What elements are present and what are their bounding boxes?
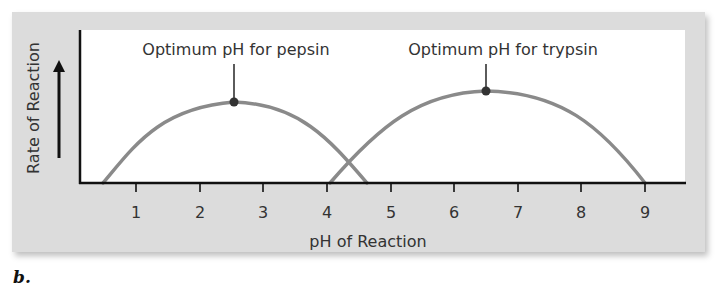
trypsin-curve [330,91,645,183]
chart-svg [0,0,727,297]
pepsin-annotation: Optimum pH for pepsin [142,40,329,59]
x-tick-label: 3 [258,203,268,222]
figure-label: b. [13,267,31,287]
x-axis-label: pH of Reaction [309,232,426,251]
x-ticks [136,183,645,192]
x-tick-label: 1 [131,203,141,222]
x-tick-label: 6 [449,203,459,222]
x-tick-label: 7 [513,203,523,222]
x-tick-label: 9 [640,203,650,222]
y-axis-arrow-icon [53,60,65,158]
trypsin-optimum-marker [482,87,491,96]
x-tick-label: 2 [195,203,205,222]
x-tick-label: 8 [576,203,586,222]
pepsin-curve [103,102,367,183]
x-tick-label: 5 [386,203,396,222]
trypsin-annotation: Optimum pH for trypsin [408,40,598,59]
x-tick-label: 4 [322,203,332,222]
pepsin-optimum-marker [230,98,239,107]
y-axis-label: Rate of Reaction [24,42,43,174]
